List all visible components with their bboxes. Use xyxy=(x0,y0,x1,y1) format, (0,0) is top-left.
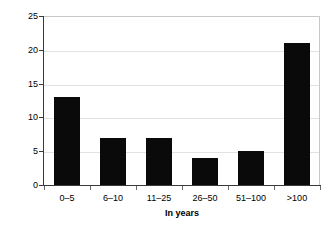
bar-chart-figure: Number of responses 0510152025 0–56–1011… xyxy=(0,0,333,235)
x-axis-tick-mark xyxy=(320,186,321,190)
x-axis-tick-label: 11–25 xyxy=(136,191,182,205)
bar xyxy=(146,138,171,185)
bar xyxy=(192,158,217,185)
y-axis-tick-label: 5 xyxy=(18,147,38,156)
x-axis-tick-mark xyxy=(44,186,45,190)
x-axis-tick-mark xyxy=(136,186,137,190)
bar-slot xyxy=(90,16,136,185)
y-axis-tick-mark xyxy=(39,84,43,85)
bar-slot xyxy=(228,16,274,185)
x-axis-tick-label: 26–50 xyxy=(182,191,228,205)
x-axis-tick-label: 0–5 xyxy=(44,191,90,205)
x-axis-tick-mark xyxy=(182,186,183,190)
bar-series xyxy=(44,16,320,185)
bar xyxy=(238,151,263,185)
y-axis-tick-mark xyxy=(39,151,43,152)
bar xyxy=(54,97,79,185)
x-axis-title: In years xyxy=(44,207,320,219)
x-axis-tick-mark xyxy=(90,186,91,190)
x-axis-tick-label: >100 xyxy=(274,191,320,205)
bar-slot xyxy=(136,16,182,185)
y-axis-tick-label: 15 xyxy=(18,80,38,89)
x-axis-tick-label: 6–10 xyxy=(90,191,136,205)
x-axis-tick-labels: 0–56–1011–2526–5051–100>100 xyxy=(44,191,320,205)
bar-slot xyxy=(274,16,320,185)
y-axis-tick-mark xyxy=(39,50,43,51)
x-axis-tick-label: 51–100 xyxy=(228,191,274,205)
bar-slot xyxy=(182,16,228,185)
x-axis-tick-marks xyxy=(44,186,320,190)
bar xyxy=(284,43,309,185)
bar xyxy=(100,138,125,185)
y-axis-tick-label: 10 xyxy=(18,113,38,122)
x-axis-tick-mark xyxy=(228,186,229,190)
y-axis-tick-label: 0 xyxy=(18,181,38,190)
y-axis-tick-mark xyxy=(39,16,43,17)
y-axis-tick-mark xyxy=(39,117,43,118)
bar-slot xyxy=(44,16,90,185)
y-axis-tick-label: 20 xyxy=(18,46,38,55)
x-axis-tick-mark xyxy=(274,186,275,190)
y-axis-tick-mark xyxy=(39,185,43,186)
y-axis-tick-labels: 0510152025 xyxy=(16,16,38,185)
y-axis-tick-label: 25 xyxy=(18,12,38,21)
